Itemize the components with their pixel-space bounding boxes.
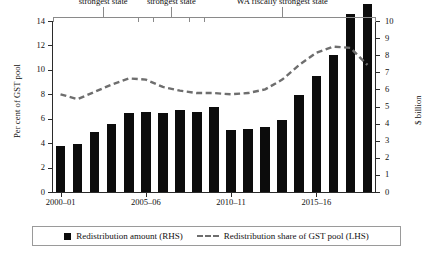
plot-area: 02468101214 012345678910 2000–012005–062… xyxy=(52,21,376,193)
y-axis-right-tick-label: 10 xyxy=(385,17,425,26)
y-axis-right-tick-label: 5 xyxy=(385,102,425,111)
y-axis-right-tick-label: 7 xyxy=(385,68,425,77)
y-axis-left-tick-label: 0 xyxy=(5,188,45,197)
y-axis-right-tick xyxy=(376,38,380,39)
y-axis-right-tick xyxy=(376,21,380,22)
y-axis-left-tick-label: 10 xyxy=(5,65,45,74)
x-axis-tick-label: 2010–11 xyxy=(216,198,245,207)
y-axis-right-tick xyxy=(376,158,380,159)
y-axis-right-tick-label: 4 xyxy=(385,119,425,128)
y-axis-left-tick-label: 2 xyxy=(5,163,45,172)
y-axis-right-tick-label: 0 xyxy=(385,188,425,197)
y-axis-right-tick xyxy=(376,124,380,125)
x-axis-tick-label: 2000–01 xyxy=(46,198,76,207)
y-axis-right-tick-label: 6 xyxy=(385,85,425,94)
y-axis-left-tick-label: 8 xyxy=(5,90,45,99)
y-axis-right-tick-label: 9 xyxy=(385,34,425,43)
legend-item-redistribution-share: Redistribution share of GST pool (LHS) xyxy=(197,231,369,241)
legend-item-redistribution-amount: Redistribution amount (RHS) xyxy=(64,231,183,241)
y-axis-right-tick xyxy=(376,107,380,108)
y-axis-left-tick-label: 12 xyxy=(5,41,45,50)
y-axis-right-tick xyxy=(376,55,380,56)
y-axis-right-tick-label: 3 xyxy=(385,136,425,145)
y-axis-right-tick xyxy=(376,192,380,193)
y-axis-right-tick-label: 8 xyxy=(385,51,425,60)
dashed-line-marker-icon xyxy=(197,235,219,238)
y-axis-left-tick-label: 4 xyxy=(5,139,45,148)
chart-figure: Per cent of GST pool $ billion 024681012… xyxy=(0,0,433,257)
y-axis-right-tick xyxy=(376,175,380,176)
period-bracket-label: WA fiscally strongest state xyxy=(189,0,375,7)
line-series-redistribution-share xyxy=(52,21,376,193)
y-axis-right-tick xyxy=(376,141,380,142)
y-axis-right-tick-label: 2 xyxy=(385,153,425,162)
line-path xyxy=(61,47,368,100)
chart-legend: Redistribution amount (RHS) Redistributi… xyxy=(32,226,401,246)
filled-square-marker-icon xyxy=(64,233,71,240)
y-axis-right-tick-label: 1 xyxy=(385,170,425,179)
y-axis-left-tick-label: 6 xyxy=(5,114,45,123)
y-axis-left-tick-label: 14 xyxy=(5,17,45,26)
legend-label-redistribution-amount: Redistribution amount (RHS) xyxy=(76,231,183,241)
x-axis-tick-label: 2005–06 xyxy=(131,198,161,207)
y-axis-right-tick xyxy=(376,72,380,73)
x-axis-tick-label: 2015–16 xyxy=(301,198,331,207)
legend-label-redistribution-share: Redistribution share of GST pool (LHS) xyxy=(224,231,369,241)
y-axis-right-tick xyxy=(376,89,380,90)
